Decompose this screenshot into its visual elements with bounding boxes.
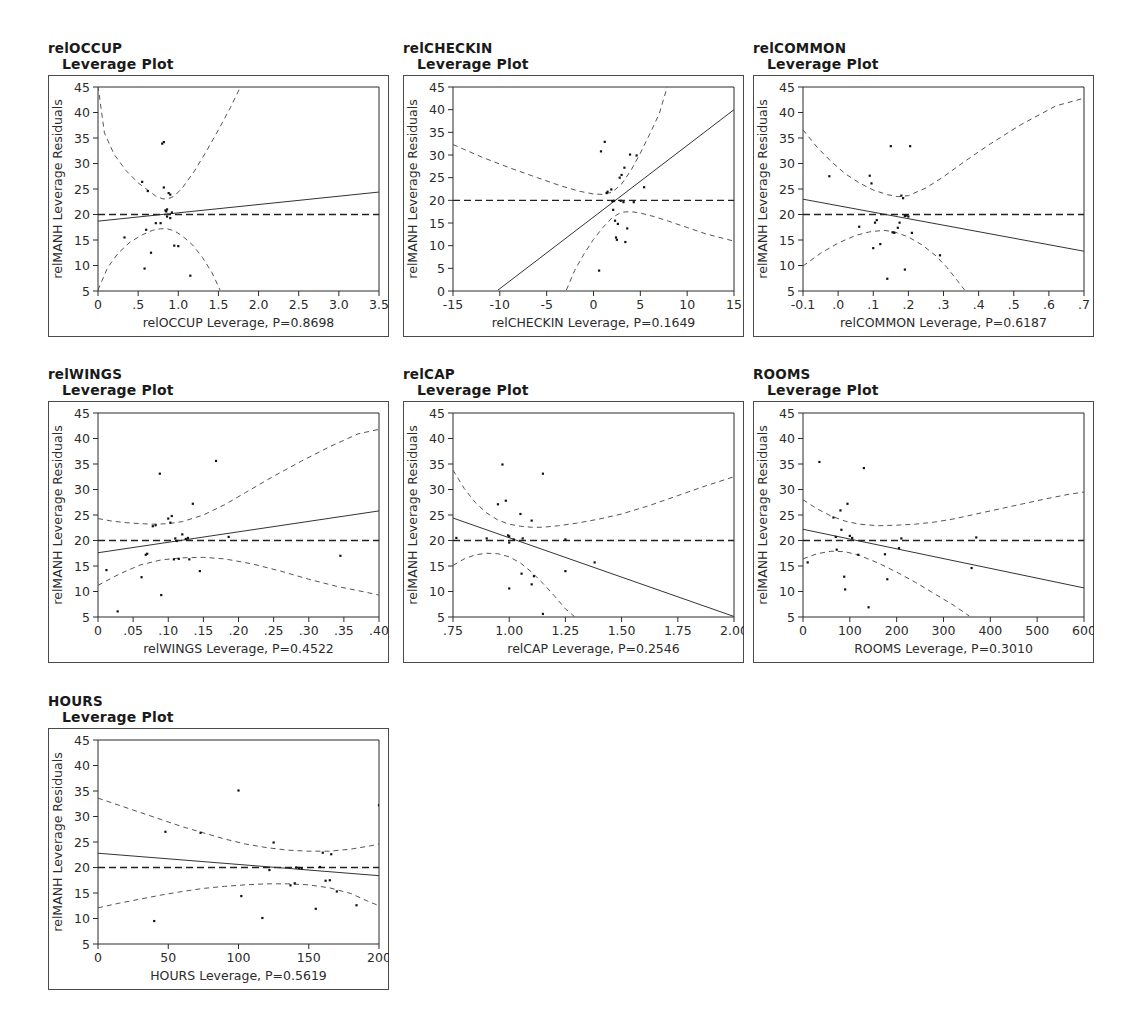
data-point	[171, 515, 173, 517]
y-tick-label: 30	[779, 156, 795, 171]
data-point	[520, 573, 522, 575]
data-point	[564, 538, 566, 540]
x-tick-label: 10	[679, 297, 695, 312]
panel-variable-label-relWINGS: relWINGS	[48, 366, 389, 382]
x-tick-label: 0	[590, 297, 598, 312]
data-point	[330, 853, 332, 855]
data-point	[105, 569, 107, 571]
data-point	[295, 866, 297, 868]
data-point	[185, 538, 187, 540]
x-tick-label: .0	[832, 297, 844, 312]
data-point	[828, 175, 830, 177]
data-point	[531, 520, 533, 522]
x-axis-title: relOCCUP Leverage, P=0.8698	[143, 315, 335, 330]
panel-title-relOCCUP: Leverage Plot	[62, 56, 389, 73]
data-point	[160, 594, 162, 596]
data-point	[898, 547, 900, 549]
x-tick-label: .05	[123, 623, 143, 638]
x-tick-label: 15	[726, 297, 742, 312]
data-point	[301, 867, 303, 869]
x-tick-label: .40	[369, 623, 389, 638]
data-point	[902, 197, 904, 199]
panel-title-relCHECKIN: Leverage Plot	[417, 56, 744, 73]
x-axis-title: relWINGS Leverage, P=0.4522	[143, 641, 334, 656]
y-tick-label: 10	[74, 258, 90, 273]
y-tick-label: 35	[779, 131, 795, 146]
y-tick-label: 5	[787, 610, 795, 625]
data-point	[904, 268, 906, 270]
y-tick-label: 5	[82, 284, 90, 299]
data-point	[900, 537, 902, 539]
x-tick-label: .1	[867, 297, 879, 312]
data-point	[166, 208, 168, 210]
y-tick-label: 45	[74, 80, 90, 95]
data-point	[626, 227, 628, 229]
y-tick-label: 40	[74, 758, 90, 773]
y-tick-label: 20	[74, 860, 90, 875]
data-point	[215, 460, 217, 462]
data-point	[163, 141, 165, 143]
x-tick-label: 3.0	[329, 297, 349, 312]
data-point	[155, 222, 157, 224]
leverage-panel-relOCCUP: relOCCUPLeverage Plot510152025303540450.…	[48, 40, 389, 337]
y-tick-label: 20	[779, 533, 795, 548]
data-point	[268, 869, 270, 871]
data-point	[893, 232, 895, 234]
data-point	[160, 222, 162, 224]
data-point	[890, 145, 892, 147]
data-point	[325, 880, 327, 882]
y-tick-label: 35	[74, 784, 90, 799]
data-point	[939, 254, 941, 256]
clipped-text-left: relOCCUP	[48, 0, 118, 2]
data-point	[616, 239, 618, 241]
x-tick-label: 600	[1072, 623, 1094, 638]
data-point	[508, 535, 510, 537]
data-point	[600, 150, 602, 152]
panel-title-HOURS: Leverage Plot	[62, 709, 389, 726]
x-tick-label: .2	[902, 297, 914, 312]
data-point	[843, 576, 845, 578]
y-axis-title: relMANH Leverage Residuals	[755, 99, 770, 278]
panel-title-relWINGS: Leverage Plot	[62, 382, 389, 399]
x-tick-label: .25	[264, 623, 284, 638]
data-point	[604, 141, 606, 143]
y-tick-label: 40	[74, 105, 90, 120]
data-point	[141, 181, 143, 183]
data-point	[971, 567, 973, 569]
panel-variable-label-relCAP: relCAP	[403, 366, 744, 382]
data-point	[189, 275, 191, 277]
x-tick-label: .10	[158, 623, 178, 638]
x-tick-label: 100	[838, 623, 862, 638]
x-tick-label: 50	[160, 950, 176, 965]
data-point	[240, 895, 242, 897]
y-axis-title: relMANH Leverage Residuals	[755, 425, 770, 604]
data-point	[150, 252, 152, 254]
data-point	[594, 561, 596, 563]
data-point	[294, 882, 296, 884]
data-point	[237, 789, 239, 791]
data-point	[610, 188, 612, 190]
data-point	[613, 200, 615, 202]
plot-area-HOURS: 51015202530354045050100150200HOURS Lever…	[48, 728, 389, 990]
panel-title-relCAP: Leverage Plot	[417, 382, 744, 399]
x-tick-label: 0	[799, 623, 807, 638]
data-point	[117, 610, 119, 612]
y-tick-label: 35	[429, 125, 445, 140]
x-tick-label: 2.5	[289, 297, 309, 312]
x-tick-label: 1.75	[664, 623, 692, 638]
data-point	[497, 503, 499, 505]
x-tick-label: 3.5	[369, 297, 389, 312]
data-point	[629, 153, 631, 155]
y-tick-label: 25	[74, 835, 90, 850]
y-axis-title: relMANH Leverage Residuals	[50, 99, 65, 278]
data-point	[228, 536, 230, 538]
data-point	[869, 175, 871, 177]
data-point	[620, 200, 622, 202]
data-point	[564, 570, 566, 572]
data-point	[155, 524, 157, 526]
panel-variable-label-relCHECKIN: relCHECKIN	[403, 40, 744, 56]
panel-variable-label-relOCCUP: relOCCUP	[48, 40, 389, 56]
leverage-panel-HOURS: HOURSLeverage Plot5101520253035404505010…	[48, 693, 389, 990]
data-point	[163, 186, 165, 188]
data-point	[146, 553, 148, 555]
